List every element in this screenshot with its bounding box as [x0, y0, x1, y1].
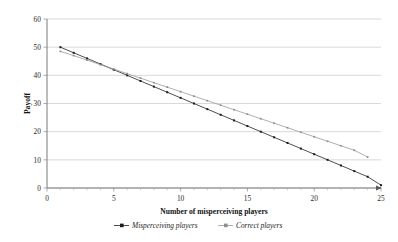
- x-tick-label-10: 10: [177, 194, 185, 203]
- y-tick-label-50: 50: [34, 43, 42, 52]
- series-line-1: [60, 47, 381, 185]
- data-point: [206, 100, 208, 102]
- data-point: [286, 142, 288, 144]
- data-point: [367, 156, 369, 158]
- data-point: [73, 55, 75, 57]
- data-point: [60, 51, 62, 53]
- data-point: [86, 57, 88, 59]
- legend: Misperceiving playersCorrect players: [114, 221, 282, 230]
- data-point: [313, 136, 315, 138]
- data-point: [166, 91, 168, 93]
- legend-label-1: Misperceiving players: [131, 221, 198, 230]
- series-2: [60, 51, 369, 158]
- data-point: [113, 68, 115, 70]
- data-point: [353, 170, 355, 172]
- data-point: [327, 159, 329, 161]
- x-tick-label-25: 25: [377, 194, 385, 203]
- data-point: [340, 145, 342, 147]
- data-point: [260, 118, 262, 120]
- data-point: [140, 80, 142, 82]
- x-tick-label-15: 15: [244, 194, 252, 203]
- data-point: [260, 131, 262, 133]
- data-point: [353, 149, 355, 151]
- ticks-layer: [44, 19, 382, 192]
- y-tick-label-20: 20: [34, 127, 42, 136]
- data-point: [273, 136, 275, 138]
- x-tick-label-20: 20: [311, 194, 319, 203]
- data-point: [313, 153, 315, 155]
- data-point: [100, 64, 102, 66]
- data-point: [153, 82, 155, 84]
- data-point: [220, 114, 222, 116]
- data-point: [287, 127, 289, 129]
- data-point: [86, 59, 88, 61]
- ticklabels-layer: 01020304050600510152025: [34, 15, 385, 203]
- data-point: [73, 52, 75, 54]
- legend-marker-1: [120, 224, 124, 228]
- legend-marker-2: [224, 224, 228, 228]
- legend-item-1[interactable]: Misperceiving players: [114, 221, 198, 230]
- data-point: [166, 86, 168, 88]
- data-point: [340, 164, 342, 166]
- chart-canvas: 01020304050600510152025 Number of misper…: [0, 0, 398, 242]
- data-point: [153, 86, 155, 88]
- data-point: [233, 109, 235, 111]
- y-tick-label-10: 10: [34, 156, 42, 165]
- series-line-2: [60, 51, 367, 157]
- data-point: [140, 77, 142, 79]
- data-point: [193, 95, 195, 97]
- axes-layer: [47, 19, 382, 191]
- data-point: [126, 73, 128, 75]
- data-point: [300, 148, 302, 150]
- y-axis-title: Payoff: [23, 92, 32, 114]
- axis-titles-layer: Number of misperceiving playersPayoff: [23, 92, 268, 216]
- grid-layer: [47, 19, 381, 188]
- x-axis-title: Number of misperceiving players: [160, 207, 268, 216]
- data-point: [180, 97, 182, 99]
- data-point: [273, 122, 275, 124]
- x-tick-label-5: 5: [112, 194, 116, 203]
- payoff-line-chart: 01020304050600510152025 Number of misper…: [0, 0, 398, 242]
- y-tick-label-60: 60: [34, 15, 42, 24]
- data-point: [233, 119, 235, 121]
- data-point: [380, 184, 382, 186]
- data-point: [220, 104, 222, 106]
- data-point: [327, 140, 329, 142]
- data-point: [300, 131, 302, 133]
- data-point: [180, 91, 182, 93]
- data-point: [206, 108, 208, 110]
- series-layer: [59, 46, 382, 186]
- legend-label-2: Correct players: [236, 221, 282, 230]
- data-point: [193, 103, 195, 105]
- data-point: [59, 46, 61, 48]
- y-tick-label-40: 40: [34, 71, 42, 80]
- data-point: [126, 74, 128, 76]
- y-tick-label-0: 0: [37, 184, 41, 193]
- data-point: [247, 113, 249, 115]
- y-tick-label-30: 30: [34, 99, 42, 108]
- legend-item-2[interactable]: Correct players: [218, 221, 282, 230]
- data-point: [367, 176, 369, 178]
- data-point: [246, 125, 248, 127]
- x-tick-label-0: 0: [45, 194, 49, 203]
